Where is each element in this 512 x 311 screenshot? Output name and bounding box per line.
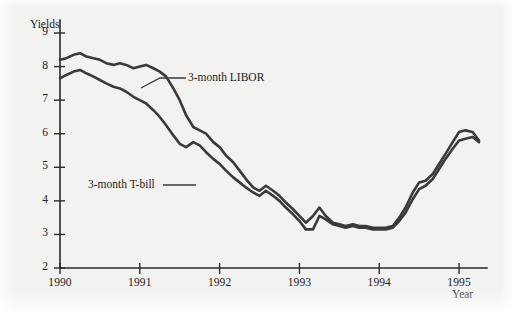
y-tick-label: 5	[22, 159, 48, 171]
y-tick-label: 7	[22, 92, 48, 104]
series-line-3-month-t-bill	[60, 70, 479, 229]
series-lines	[60, 53, 479, 229]
annotation-leader-lines	[141, 78, 196, 185]
x-tick-label: 1995	[435, 276, 483, 288]
y-tick-label: 6	[22, 126, 48, 138]
x-tick-label: 1993	[275, 276, 323, 288]
y-tick-label: 9	[22, 25, 48, 37]
series-label-tbill: 3-month T-bill	[88, 178, 155, 190]
x-axis-title: Year	[452, 288, 473, 300]
leader-line-libor	[141, 78, 186, 88]
y-tick-label: 4	[22, 193, 48, 205]
y-tick-label: 2	[22, 260, 48, 272]
x-tick-label: 1994	[355, 276, 403, 288]
axes	[60, 20, 487, 268]
x-tick-label: 1991	[116, 276, 164, 288]
chart-plot-area	[0, 0, 512, 311]
y-tick-label: 8	[22, 59, 48, 71]
x-tick-label: 1990	[36, 276, 84, 288]
series-line-3-month-libor	[60, 53, 479, 228]
axis-ticks	[54, 33, 459, 274]
series-label-libor: 3-month LIBOR	[188, 71, 264, 83]
x-tick-label: 1992	[196, 276, 244, 288]
axis-spines	[60, 20, 487, 268]
y-tick-label: 3	[22, 226, 48, 238]
yield-curve-figure: Yields Year 3-month LIBOR 3-month T-bill…	[0, 0, 512, 311]
